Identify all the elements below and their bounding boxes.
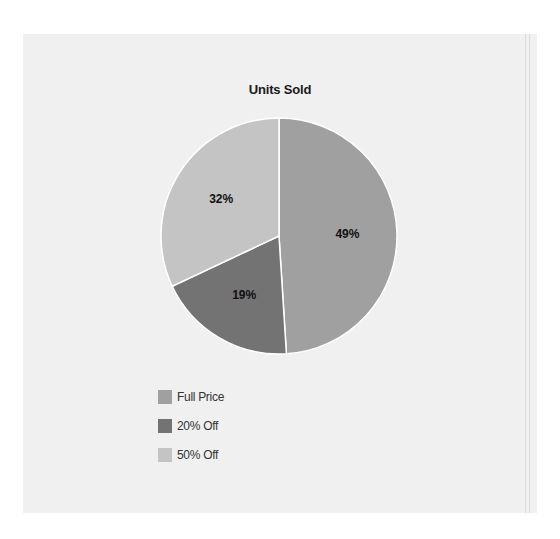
legend-swatch: [158, 390, 172, 404]
legend-swatch: [158, 448, 172, 462]
legend-label: Full Price: [177, 390, 224, 404]
legend-label: 50% Off: [177, 448, 218, 462]
legend-item-full-price: Full Price: [158, 388, 224, 406]
pie-chart: 49%19%32%: [0, 0, 560, 539]
slice-label: 32%: [209, 192, 233, 206]
legend-swatch: [158, 419, 172, 433]
legend-label: 20% Off: [177, 419, 218, 433]
legend-item-20-off: 20% Off: [158, 417, 224, 435]
slice-label: 19%: [232, 288, 256, 302]
legend: Full Price 20% Off 50% Off: [158, 388, 224, 475]
slice-label: 49%: [335, 227, 359, 241]
legend-item-50-off: 50% Off: [158, 446, 224, 464]
